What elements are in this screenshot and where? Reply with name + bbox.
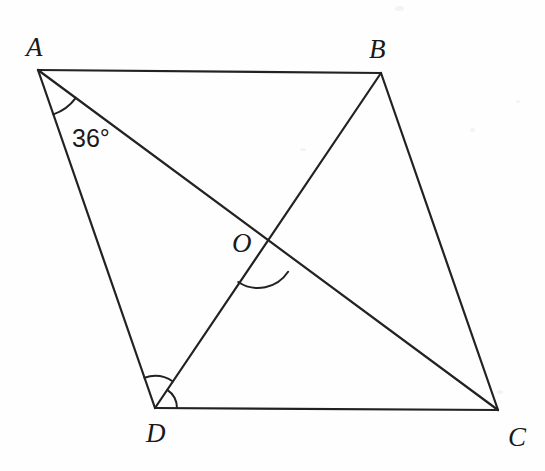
vertex-label-d: D bbox=[146, 420, 166, 447]
segment-cd bbox=[155, 408, 498, 410]
vertex-label-o: O bbox=[232, 230, 252, 257]
quadrilateral-figure bbox=[0, 0, 545, 471]
vertex-label-b: B bbox=[369, 36, 386, 63]
segment-da bbox=[38, 70, 155, 408]
segment-bc bbox=[381, 73, 498, 410]
angle-arc-at-d-inner bbox=[167, 390, 177, 408]
diagonal-bd bbox=[155, 73, 381, 408]
vertex-label-a: A bbox=[26, 34, 43, 61]
vertex-label-c: C bbox=[508, 424, 526, 451]
diagram-canvas: A B C D O 36° bbox=[0, 0, 545, 471]
angle-arc-at-a bbox=[53, 98, 75, 115]
angle-value-at-a: 36° bbox=[72, 126, 110, 151]
segment-ab bbox=[38, 70, 381, 73]
angle-arc-at-d-outer bbox=[145, 376, 173, 381]
